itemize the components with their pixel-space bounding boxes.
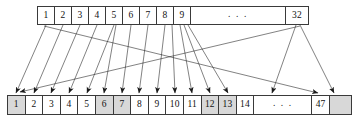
destination-cell-5: 5 xyxy=(78,96,96,114)
arrow-12 xyxy=(184,25,210,93)
arrow-8 xyxy=(139,25,148,93)
destination-cell-1: 1 xyxy=(8,96,26,114)
arrow-5 xyxy=(87,25,114,93)
destination-cell-14: 14 xyxy=(237,96,255,114)
arrow-cross-right xyxy=(20,26,300,92)
arrow-long-right xyxy=(272,25,296,93)
arrow-2 xyxy=(34,25,63,93)
destination-cell-10: 10 xyxy=(166,96,184,114)
destination-cell-9: 9 xyxy=(149,96,167,114)
source-cell-9: 9 xyxy=(174,7,191,24)
arrow-long-left xyxy=(44,26,318,93)
source-cell-32: 32 xyxy=(286,7,308,24)
source-array: 123456789. . .32 xyxy=(37,6,309,25)
destination-cell-8: 8 xyxy=(131,96,149,114)
source-cell-ellipsis: . . . xyxy=(191,7,286,24)
source-cell-8: 8 xyxy=(157,7,174,24)
arrow-3 xyxy=(51,25,80,93)
destination-cell-11: 11 xyxy=(184,96,202,114)
destination-cell-empty xyxy=(330,96,351,114)
arrow-4 xyxy=(69,25,97,93)
destination-cell-6: 6 xyxy=(96,96,114,114)
destination-cell-4: 4 xyxy=(61,96,79,114)
destination-cell-3: 3 xyxy=(43,96,61,114)
arrow-13 xyxy=(188,25,228,93)
source-cell-2: 2 xyxy=(55,7,72,24)
arrow-9 xyxy=(157,25,165,93)
source-cell-5: 5 xyxy=(106,7,123,24)
source-cell-7: 7 xyxy=(140,7,157,24)
arrow-1 xyxy=(16,25,46,93)
source-cell-6: 6 xyxy=(123,7,140,24)
source-cell-4: 4 xyxy=(89,7,106,24)
arrow-10 xyxy=(172,25,175,93)
arrow-6 xyxy=(104,25,116,93)
source-cell-1: 1 xyxy=(38,7,55,24)
arrow-7 xyxy=(122,25,131,93)
source-cell-3: 3 xyxy=(72,7,89,24)
destination-cell-13: 13 xyxy=(219,96,237,114)
destination-cell-12: 12 xyxy=(202,96,220,114)
destination-cell-7: 7 xyxy=(114,96,132,114)
destination-cell-2: 2 xyxy=(26,96,44,114)
destination-array: 1234567891011121314. . .47 xyxy=(7,95,352,115)
arrow-32-tail xyxy=(300,25,334,93)
arrow-11 xyxy=(180,25,192,93)
destination-cell-47: 47 xyxy=(312,96,330,114)
destination-cell-ellipsis: . . . xyxy=(254,96,312,114)
